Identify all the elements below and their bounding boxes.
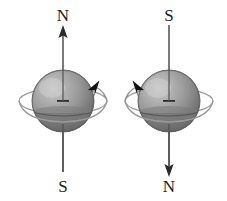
right-sphere-highlight — [145, 78, 171, 98]
left-top-pole-label: N — [57, 6, 69, 25]
left-sphere-highlight — [39, 78, 65, 98]
left-bottom-pole-label: S — [58, 177, 67, 196]
dipole-diagram-svg: N S — [0, 0, 227, 201]
left-sphere-equator-band — [32, 106, 94, 120]
right-sphere-equator-band — [138, 106, 200, 120]
right-bottom-pole-label: N — [163, 177, 175, 196]
right-top-pole-label: S — [164, 6, 173, 25]
dipole-figure: N S — [0, 0, 227, 201]
